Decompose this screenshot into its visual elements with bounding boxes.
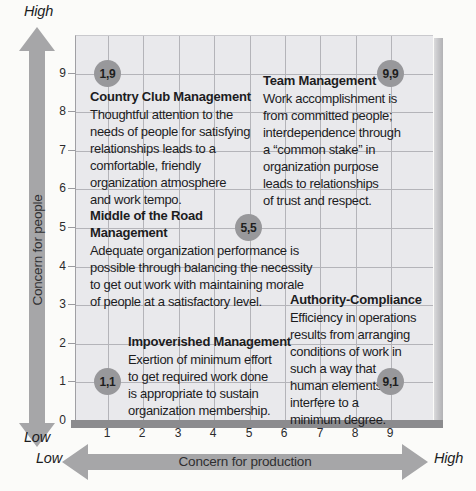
y-axis-high-label: High xyxy=(24,3,53,19)
y-axis-title: Concern for people xyxy=(30,194,45,305)
y-tick-2: 2 xyxy=(48,336,66,350)
point-1-1: 1,1 xyxy=(94,368,121,395)
y-tickmark-2 xyxy=(68,343,75,344)
impoverished-title: Impoverished Management xyxy=(128,333,291,350)
y-tick-1: 1 xyxy=(48,374,66,388)
y-tickmark-3 xyxy=(68,304,75,305)
point-9-1: 9,1 xyxy=(377,368,404,395)
y-tickmark-8 xyxy=(68,111,75,112)
x-tick-1: 1 xyxy=(97,426,117,440)
y-tickmark-4 xyxy=(68,266,75,267)
y-tick-9: 9 xyxy=(48,66,66,80)
y-tick-7: 7 xyxy=(48,143,66,157)
y-tick-4: 4 xyxy=(48,259,66,273)
managerial-grid-figure: High Concern for people Low 9 8 7 6 5 4 … xyxy=(0,0,476,491)
y-tick-0: 0 xyxy=(48,413,66,427)
y-tickmark-6 xyxy=(68,188,75,189)
y-tickmark-9 xyxy=(68,73,75,74)
y-tick-3: 3 xyxy=(48,297,66,311)
grid-right-bevel xyxy=(434,38,443,427)
impoverished-description: Exertion of minimum effort to get requir… xyxy=(128,351,291,419)
country-club-description: Thoughtful attention to the needs of peo… xyxy=(90,106,251,208)
middle-of-road-title: Middle of the Road Management xyxy=(90,207,312,241)
point-9-9: 9,9 xyxy=(377,60,404,87)
y-tickmark-7 xyxy=(68,150,75,151)
x-tick-9: 9 xyxy=(380,426,400,440)
point-5-5: 5,5 xyxy=(235,214,262,241)
authority-compliance-block: Authority-Compliance Efficiency in opera… xyxy=(290,291,422,428)
x-tick-2: 2 xyxy=(132,426,152,440)
middle-of-road-block: Middle of the Road Management Adequate o… xyxy=(90,207,312,310)
team-management-description: Work accomplishment is from committed pe… xyxy=(263,90,401,209)
x-tick-4: 4 xyxy=(203,426,223,440)
x-tick-3: 3 xyxy=(168,426,188,440)
y-tick-5: 5 xyxy=(48,220,66,234)
country-club-title: Country Club Management xyxy=(90,88,251,105)
point-1-9: 1,9 xyxy=(94,60,121,87)
x-tick-6: 6 xyxy=(274,426,294,440)
x-axis-title: Concern for production xyxy=(120,454,370,469)
country-club-block: Country Club Management Thoughtful atten… xyxy=(90,88,251,208)
y-tickmark-1 xyxy=(68,381,75,382)
x-tick-8: 8 xyxy=(345,426,365,440)
x-axis-high-label: High xyxy=(434,450,463,466)
authority-compliance-description: Efficiency in operations results from ar… xyxy=(290,309,422,428)
y-tick-6: 6 xyxy=(48,181,66,195)
team-management-block: Team Management Work accomplishment is f… xyxy=(263,72,401,209)
authority-compliance-title: Authority-Compliance xyxy=(290,291,422,308)
x-tick-7: 7 xyxy=(310,426,330,440)
x-tick-5: 5 xyxy=(239,426,259,440)
x-axis-low-label: Low xyxy=(36,450,62,466)
impoverished-block: Impoverished Management Exertion of mini… xyxy=(128,333,291,419)
y-tick-8: 8 xyxy=(48,104,66,118)
y-tickmark-5 xyxy=(68,227,75,228)
middle-of-road-description: Adequate organization performance is pos… xyxy=(90,242,312,310)
y-axis-low-label: Low xyxy=(24,429,50,445)
